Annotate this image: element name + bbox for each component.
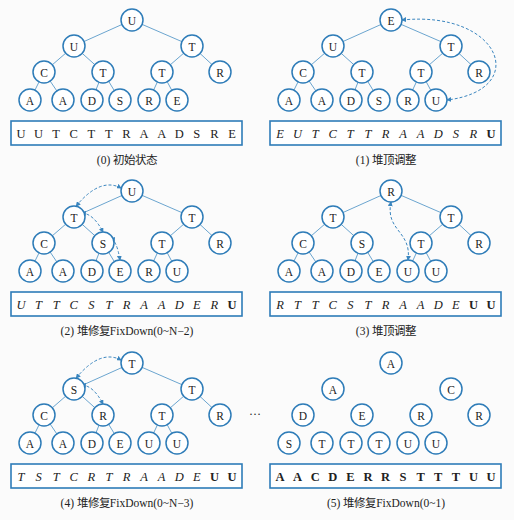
array-cell: T xyxy=(105,470,113,484)
tree-node: D xyxy=(340,89,362,111)
tree-node: U xyxy=(121,180,143,202)
node-label: U xyxy=(404,266,413,278)
node-label: R xyxy=(475,67,483,79)
tree-node: T xyxy=(351,61,373,83)
array-cell: T xyxy=(88,127,96,141)
node-label: U xyxy=(128,15,137,27)
array-cell: T xyxy=(364,127,372,141)
tree-edge xyxy=(343,195,381,212)
array-cell: R xyxy=(469,127,478,141)
tree-node: D xyxy=(81,260,103,282)
tree-edge xyxy=(355,82,358,90)
array-cell: R xyxy=(210,298,219,312)
tree-node: D xyxy=(292,404,314,426)
tree-node: E xyxy=(380,9,402,31)
array-cell: T xyxy=(53,470,61,484)
tree-edge xyxy=(50,81,57,91)
node-label: T xyxy=(70,212,77,224)
panel-caption: (3) 堆顶调整 xyxy=(356,324,417,338)
tree-node: R xyxy=(92,404,114,426)
tree-edge xyxy=(52,53,65,65)
tree-node: T xyxy=(440,35,462,57)
array-cell: T xyxy=(18,470,26,484)
array-cell: T xyxy=(364,298,372,312)
node-label: R xyxy=(475,238,483,250)
array-cell: A xyxy=(140,127,149,141)
node-label: R xyxy=(145,266,153,278)
node-label: D xyxy=(88,438,96,450)
tree-node: T xyxy=(440,206,462,228)
array-cell: T xyxy=(35,298,43,312)
panel-caption: (0) 初始状态 xyxy=(97,153,158,167)
tree-edge xyxy=(142,195,182,212)
array-cell: T xyxy=(294,298,302,312)
node-label: R xyxy=(99,410,107,422)
tree-node: R xyxy=(380,180,402,202)
array-cell: E xyxy=(346,470,354,484)
tree-edge xyxy=(167,82,172,91)
array-cell: R xyxy=(381,298,390,312)
tree-node: A xyxy=(311,260,333,282)
tree-node: C xyxy=(33,404,55,426)
array-cell: D xyxy=(174,298,184,312)
node-label: S xyxy=(376,95,382,107)
node-label: A xyxy=(26,438,35,450)
array-cell: D xyxy=(174,470,184,484)
array-cell: D xyxy=(328,470,337,484)
array-cell: D xyxy=(433,127,443,141)
panel-4: TSTCRTRAADEUUTSTCRTRAADEUU(4) 堆修复FixDown… xyxy=(11,352,242,510)
tree-edge xyxy=(167,253,172,262)
tree-edge xyxy=(341,224,354,235)
tree-edge xyxy=(96,82,99,90)
node-label: S xyxy=(117,95,123,107)
tree-node: T xyxy=(151,61,173,83)
tree-node: U xyxy=(63,35,85,57)
tree-node: R xyxy=(209,404,231,426)
node-label: U xyxy=(173,438,182,450)
node-label: C xyxy=(447,384,455,396)
node-label: U xyxy=(432,438,441,450)
tree-edge xyxy=(459,224,471,235)
node-label: R xyxy=(417,410,425,422)
node-label: A xyxy=(329,384,338,396)
node-label: S xyxy=(100,238,106,250)
array-cell: A xyxy=(157,298,166,312)
array-cell: E xyxy=(228,127,236,141)
tree-node: R xyxy=(209,232,231,254)
swap-arrow-icon xyxy=(390,202,408,260)
array-cell: C xyxy=(311,470,320,484)
tree-node: C xyxy=(33,232,55,254)
tree-edge xyxy=(50,252,57,262)
tree-node: C xyxy=(292,232,314,254)
tree-edge xyxy=(84,367,122,384)
tree-edge xyxy=(84,195,122,212)
node-label: A xyxy=(26,266,35,278)
tree-node: A xyxy=(19,260,41,282)
node-label: T xyxy=(417,67,424,79)
array-cell: C xyxy=(70,470,79,484)
array-cell: A xyxy=(293,470,302,484)
node-label: T xyxy=(375,438,382,450)
array-cell: T xyxy=(312,127,320,141)
tree-edge xyxy=(429,224,442,236)
tree-node: T xyxy=(410,61,432,83)
array-cell: T xyxy=(434,470,443,484)
tree-node: R xyxy=(410,404,432,426)
array-cell: S xyxy=(88,298,95,312)
array-cell: A xyxy=(416,127,425,141)
array-cell: E xyxy=(192,298,201,312)
array-cell: R xyxy=(363,470,373,484)
tree-edge xyxy=(109,252,115,261)
tree-node: C xyxy=(292,61,314,83)
array-cell: S xyxy=(400,470,407,484)
node-label: D xyxy=(88,95,96,107)
tree-node: E xyxy=(166,89,188,111)
array-cell: S xyxy=(193,127,200,141)
tree-edge xyxy=(84,24,122,41)
array-cell: D xyxy=(433,298,443,312)
tree-edge xyxy=(154,82,158,90)
node-label: A xyxy=(59,438,68,450)
array-cell: C xyxy=(70,298,79,312)
node-label: U xyxy=(432,95,441,107)
node-label: T xyxy=(358,67,365,79)
